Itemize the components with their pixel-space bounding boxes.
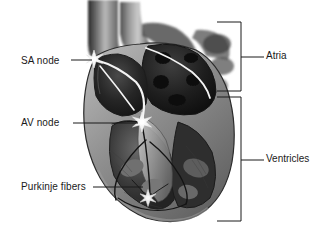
label-atria: Atria xyxy=(266,51,287,61)
label-purkinje-fibers: Purkinje fibers xyxy=(21,182,86,192)
label-sa-node: SA node xyxy=(21,56,60,66)
figure-page: SA node AV node Purkinje fibers Atria Ve… xyxy=(0,0,320,240)
vessel-stump-upper-right xyxy=(203,34,231,54)
heart-diagram: SA node AV node Purkinje fibers Atria Ve… xyxy=(0,0,320,240)
label-av-node: AV node xyxy=(21,118,59,128)
label-ventricles: Ventricles xyxy=(266,154,309,164)
